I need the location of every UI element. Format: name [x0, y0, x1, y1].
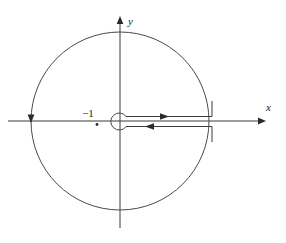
label-y-axis: y: [127, 15, 133, 27]
contour-diagram-canvas: −1 x y: [0, 0, 286, 243]
label-x-axis: x: [265, 101, 271, 113]
label-minus-one: −1: [82, 107, 94, 119]
branch-cut-lower-arrowhead-icon: [145, 123, 154, 129]
y-axis-arrowhead-icon: [117, 16, 124, 24]
branch-cut-upper-arrowhead-icon: [160, 113, 169, 119]
point-marker-minus-one: [96, 123, 99, 126]
outer-circle-direction-arrowhead-icon: [28, 115, 35, 124]
axes-group: [8, 16, 266, 228]
complex-plane-contour-figure: −1 x y: [0, 0, 286, 243]
x-axis-arrowhead-icon: [258, 118, 266, 125]
